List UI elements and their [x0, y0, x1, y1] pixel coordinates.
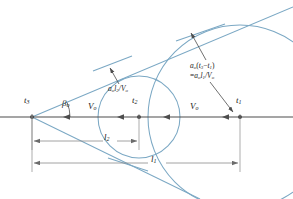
label-t1: t1 — [236, 96, 241, 106]
dimension-l1 — [32, 114, 240, 172]
label-t2: t2 — [132, 96, 137, 106]
figure-canvas: t3 t2 t1 βo Vo Vo l2 l1 aol2/Vo ao(t3−t1… — [0, 0, 293, 199]
mach-line-upper — [32, 7, 293, 117]
annotation-small-wave-radius: aol2/Vo — [108, 84, 128, 94]
mach-lines — [32, 7, 293, 199]
velocity-arrowhead-right — [163, 114, 170, 120]
annotation-large-wave-line2: =aol1/Vo — [190, 71, 215, 81]
leader-large-wave-lower — [210, 82, 233, 112]
velocity-arrowhead-left — [63, 114, 70, 120]
tangent-stub-small-upper — [93, 56, 132, 71]
tangent-stub-small-lower — [108, 158, 148, 171]
label-velocity-right: Vo — [190, 102, 198, 112]
leader-small-wave — [110, 68, 119, 84]
mach-cone-diagram — [0, 0, 293, 199]
leader-large-wave — [191, 33, 206, 60]
label-mach-angle-beta: βo — [62, 99, 69, 109]
annotation-large-wave-radius: ao(t3−t1) =aol1/Vo — [190, 61, 215, 82]
annotation-large-wave-line1: ao(t3−t1) — [190, 61, 215, 71]
label-t3: t3 — [24, 96, 29, 106]
mach-wave-arcs — [98, 25, 293, 199]
wave-circle-large — [148, 25, 293, 199]
mach-line-lower — [32, 117, 200, 199]
label-length-l1: l1 — [151, 155, 156, 165]
dimension-l2 — [32, 114, 139, 150]
flight-path-axis — [0, 114, 293, 120]
label-length-l2: l2 — [104, 133, 109, 143]
label-velocity-left: Vo — [88, 102, 96, 112]
velocity-arrowhead-mid — [117, 114, 124, 120]
velocity-arrowhead-far-right — [222, 114, 229, 120]
